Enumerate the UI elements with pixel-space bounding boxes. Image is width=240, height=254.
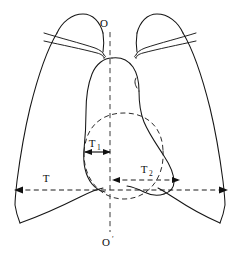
T2-arrowhead-right [172, 177, 180, 183]
left-clavicle [44, 33, 106, 58]
measurement-T2 [112, 177, 180, 183]
label-axis-bottom-prime: ′ [112, 235, 114, 244]
left-clavicle-medial-tip [104, 55, 106, 58]
cardiac-base-dashed-outline [84, 113, 163, 199]
label-axis-bottom-group: O ′ [102, 235, 114, 248]
left-lung-apex [57, 14, 103, 33]
cardiac-upper-dashed-arc [84, 113, 163, 152]
right-chest-wall-outline [183, 33, 225, 223]
right-lung-field [136, 14, 225, 223]
right-hemidiaphragm [158, 188, 220, 223]
left-clavicle-upper-border [44, 33, 104, 55]
right-lung-medial-border [136, 33, 137, 52]
cardiac-apex-inferior-border [127, 186, 164, 195]
label-axis-top: O [100, 17, 108, 29]
right-clavicle [135, 33, 197, 58]
left-clavicle-lower-border [44, 41, 104, 58]
right-lung-apex [137, 14, 183, 33]
left-lung-medial-border [103, 33, 104, 52]
chest-diagram-canvas: O O ′ T T 1 T 2 [0, 0, 240, 254]
label-axis-bottom: O [102, 236, 110, 248]
left-heart-border [139, 91, 174, 194]
right-clavicle-lower-border [136, 41, 196, 58]
aortic-knob-contour [112, 58, 139, 91]
label-thoracic-width: T [43, 172, 50, 184]
label-cardiac-left-group: T 2 [141, 163, 153, 178]
right-clavicle-medial-tip [135, 55, 137, 58]
left-chest-wall-outline [15, 33, 57, 223]
label-cardiac-right: T [89, 137, 96, 149]
right-diaphragm-dome [158, 188, 220, 223]
label-cardiac-left-subscript: 2 [149, 169, 153, 178]
left-hemidiaphragm [20, 188, 103, 223]
right-clavicle-upper-border [136, 33, 196, 55]
label-cardiac-left: T [141, 163, 148, 175]
right-heart-border [84, 58, 112, 192]
aortic-arch-inner-mark [135, 78, 137, 88]
measurement-T [14, 187, 228, 194]
label-cardiac-right-subscript: 1 [97, 143, 101, 152]
cardiac-silhouette [84, 58, 174, 195]
left-diaphragm-dome [20, 188, 103, 223]
chest-radiograph-schematic: O O ′ T T 1 T 2 [0, 0, 240, 254]
T2-arrowhead-left [112, 177, 120, 183]
T1-arrowhead-left [84, 149, 92, 155]
